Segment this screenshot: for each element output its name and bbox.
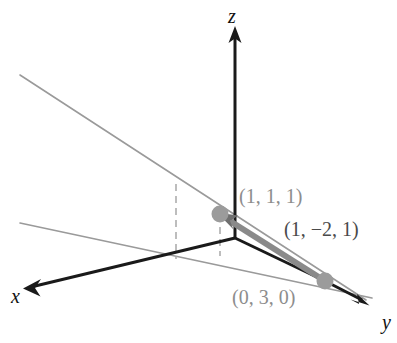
x-axis-arrowhead — [23, 279, 41, 297]
vector-label-p1m21: (1, −2, 1) — [284, 219, 359, 239]
x-axis-label: x — [11, 286, 20, 306]
coordinate-diagram: x y z (1, 1, 1) (1, −2, 1) (0, 3, 0) — [0, 0, 397, 343]
point-label-p111: (1, 1, 1) — [239, 186, 302, 206]
z-axis-label: z — [228, 6, 236, 26]
diagram-canvas — [0, 0, 397, 343]
point-dot-p111 — [212, 206, 229, 223]
point-label-p030: (0, 3, 0) — [232, 287, 295, 307]
y-axis-label: y — [382, 312, 391, 332]
point-dot-p030 — [317, 273, 334, 290]
upper-plane-trace-line — [20, 75, 366, 300]
